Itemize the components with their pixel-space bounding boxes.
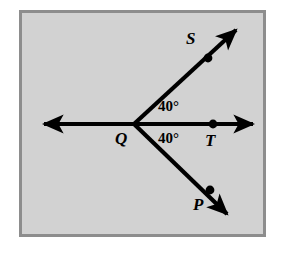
point-label-S: S: [186, 30, 195, 47]
diagram-frame: [19, 10, 266, 237]
angle-measure-upper: 40°: [158, 99, 179, 114]
point-label-T: T: [205, 132, 215, 149]
point-label-P: P: [193, 196, 203, 213]
figure-root: S P T Q 40° 40°: [0, 0, 283, 255]
point-label-Q: Q: [115, 130, 127, 147]
angle-measure-lower: 40°: [158, 131, 179, 146]
